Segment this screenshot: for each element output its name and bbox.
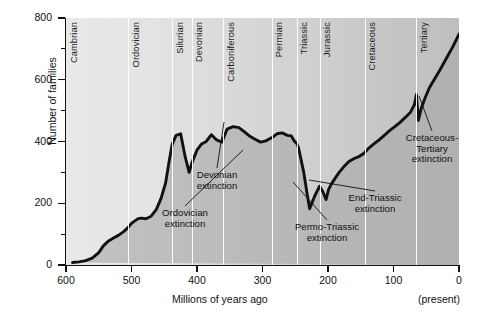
annotation-permo-triassic-extinction: Permo-Triassic extinction — [283, 222, 371, 243]
x-tick-major-500 — [131, 266, 132, 272]
annotation-devonian-extinction: Devonian extinction — [173, 170, 261, 191]
annotation-cretaceous-tertiary-extinction: Cretaceous- Tertiary extinction — [388, 133, 476, 165]
leader-line-devonian-extinction — [217, 122, 224, 168]
y-tick-major-800 — [58, 17, 65, 18]
x-tick-major-400 — [196, 266, 197, 272]
y-tick-major-0 — [58, 264, 65, 265]
y-tick-major-200 — [58, 203, 65, 204]
x-tick-label-200: 200 — [306, 274, 350, 286]
leader-line-cretaceous-tertiary-extinction — [419, 96, 432, 131]
y-tick-label-800: 800 — [18, 11, 52, 23]
x-tick-major-0 — [458, 266, 459, 272]
biodiversity-chart-figure: Number of families CambrianOrdovicianSil… — [0, 0, 486, 317]
x-axis-title: Millions of years ago — [172, 293, 268, 305]
x-tick-label-500: 500 — [110, 274, 154, 286]
x-tick-label-600: 600 — [44, 274, 88, 286]
y-tick-label-400: 400 — [18, 135, 52, 147]
y-tick-minor-300 — [61, 172, 65, 173]
x-axis-present-note: (present) — [418, 293, 460, 305]
x-tick-label-300: 300 — [241, 274, 285, 286]
annotation-ordovician-extinction: Ordovician extinction — [141, 208, 229, 229]
x-tick-major-300 — [262, 266, 263, 272]
annotation-end-triassic-extinction: End-Triassic extinction — [331, 193, 419, 214]
y-tick-major-600 — [58, 79, 65, 80]
y-axis-line — [65, 18, 66, 266]
x-tick-major-200 — [327, 266, 328, 272]
y-tick-label-600: 600 — [18, 73, 52, 85]
leader-line-permo-triassic-extinction — [293, 182, 327, 220]
y-tick-minor-500 — [61, 110, 65, 111]
y-tick-minor-700 — [61, 48, 65, 49]
x-tick-label-100: 100 — [372, 274, 416, 286]
y-tick-major-400 — [58, 141, 65, 142]
y-tick-minor-100 — [61, 234, 65, 235]
y-tick-label-200: 200 — [18, 196, 52, 208]
leader-line-end-triassic-extinction — [309, 180, 375, 191]
x-tick-label-400: 400 — [175, 274, 219, 286]
y-tick-label-0: 0 — [18, 258, 52, 270]
x-tick-label-0: 0 — [437, 274, 481, 286]
x-tick-major-100 — [393, 266, 394, 272]
x-tick-major-600 — [65, 266, 66, 272]
